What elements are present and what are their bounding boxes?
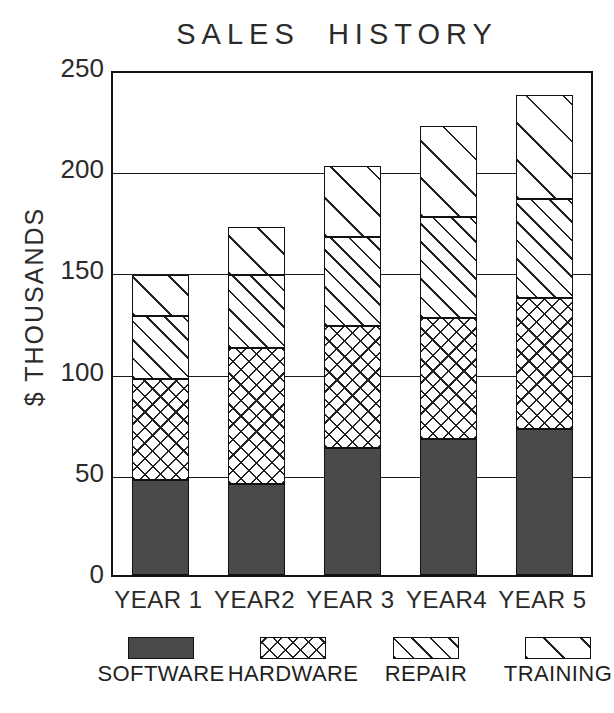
legend-swatch-icon bbox=[260, 637, 326, 659]
bar-segment-training[interactable] bbox=[324, 166, 381, 237]
y-tick-label-0: 0 bbox=[9, 559, 104, 590]
legend-swatch-icon bbox=[393, 637, 459, 659]
legend-label: SOFTWARE bbox=[95, 661, 227, 687]
bar-segment-software[interactable] bbox=[324, 448, 381, 576]
bar-segment-software[interactable] bbox=[132, 480, 189, 575]
bar-group[interactable] bbox=[324, 69, 381, 575]
bar-segment-hardware[interactable] bbox=[420, 318, 477, 439]
bar-group[interactable] bbox=[228, 69, 285, 575]
bar-group[interactable] bbox=[420, 69, 477, 575]
bar-segment-software[interactable] bbox=[420, 439, 477, 575]
legend-item-hardware[interactable]: HARDWARE bbox=[227, 637, 359, 687]
y-tick-label-50: 50 bbox=[9, 458, 104, 489]
bar-segment-repair[interactable] bbox=[324, 237, 381, 326]
bar-segment-training[interactable] bbox=[228, 227, 285, 276]
legend-item-software[interactable]: SOFTWARE bbox=[95, 637, 227, 687]
bar-segment-training[interactable] bbox=[132, 275, 189, 315]
bar-segment-hardware[interactable] bbox=[132, 379, 189, 480]
sales-history-chart: SALES HISTORY 250200150100500 $ THOUSAND… bbox=[0, 0, 614, 713]
bar-segment-repair[interactable] bbox=[228, 275, 285, 348]
chart-legend: SOFTWAREHARDWAREREPAIRTRAINING bbox=[0, 637, 614, 697]
x-tick-label: YEAR 5 bbox=[478, 586, 608, 614]
bar-segment-training[interactable] bbox=[420, 126, 477, 217]
bar-segment-hardware[interactable] bbox=[324, 326, 381, 447]
y-tick-label-250: 250 bbox=[9, 53, 104, 84]
legend-label: HARDWARE bbox=[227, 661, 359, 687]
legend-swatch-icon bbox=[525, 637, 591, 659]
bar-segment-repair[interactable] bbox=[132, 316, 189, 379]
legend-swatch-icon bbox=[128, 637, 194, 659]
bar-segment-software[interactable] bbox=[228, 484, 285, 575]
legend-item-repair[interactable]: REPAIR bbox=[360, 637, 492, 687]
bar-segment-hardware[interactable] bbox=[228, 348, 285, 484]
bar-segment-training[interactable] bbox=[516, 95, 573, 198]
legend-label: REPAIR bbox=[360, 661, 492, 687]
bar-segment-software[interactable] bbox=[516, 429, 573, 575]
plot-area bbox=[111, 71, 593, 577]
legend-label: TRAINING bbox=[492, 661, 614, 687]
y-axis-title: $ THOUSANDS bbox=[20, 177, 49, 437]
bar-segment-repair[interactable] bbox=[420, 217, 477, 318]
legend-item-training[interactable]: TRAINING bbox=[492, 637, 614, 687]
bar-group[interactable] bbox=[132, 69, 189, 575]
bar-segment-hardware[interactable] bbox=[516, 298, 573, 430]
bar-segment-repair[interactable] bbox=[516, 199, 573, 298]
bar-group[interactable] bbox=[516, 69, 573, 575]
y-axis-tick-labels: 250200150100500 bbox=[0, 0, 104, 713]
